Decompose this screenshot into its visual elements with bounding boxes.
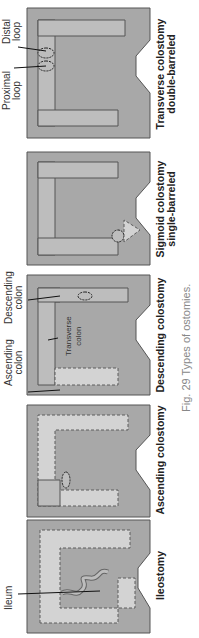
panel-sigmoid: Sigmoid colostomysingle-barreled [0, 148, 199, 270]
transverse-diagram [0, 0, 155, 148]
callout-distal-loop: Distalloop [2, 19, 22, 44]
ascending-diagram [0, 400, 155, 520]
panel-label: Transverse colostomydouble-barreled [155, 0, 177, 148]
ileostomy-diagram [0, 513, 155, 638]
panel-descending: Ascendingcolon Descendingcolon Transvers… [0, 270, 199, 400]
panel-label: Ascending colostomy [155, 400, 166, 520]
figure-caption: Fig. 29 Types of ostomies. [180, 284, 192, 412]
callout-descending-colon: Descendingcolon [4, 271, 24, 324]
sigmoid-diagram [0, 148, 155, 270]
figure-ostomy-types: Ileum Ileostomy Ascending colostomy Asce… [0, 0, 199, 638]
panel-label: Ileostomy [155, 513, 166, 638]
panel-ascending: Ascending colostomy [0, 400, 199, 520]
panel-label: Sigmoid colostomysingle-barreled [155, 148, 177, 270]
callout-ascending-colon: Ascendingcolon [4, 339, 24, 386]
panel-transverse: Proximalloop Distalloop Transverse colos… [0, 0, 199, 148]
callout-proximal-loop: Proximalloop [2, 71, 22, 110]
panel-label: Descending colostomy [155, 270, 166, 400]
panel-ileostomy: Ileum Ileostomy [0, 513, 199, 638]
callout-ileum: Ileum [4, 586, 14, 610]
callout-transverse-colon: Transversecolon [64, 316, 84, 356]
